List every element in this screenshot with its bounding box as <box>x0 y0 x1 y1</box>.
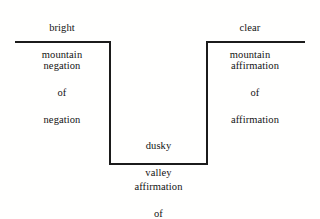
label-line: of <box>203 86 307 99</box>
label-negation-of-negation: negation of negation <box>12 46 112 140</box>
label-line: of <box>12 86 112 99</box>
label-line: bright <box>12 21 112 34</box>
label-line: clear <box>200 21 300 34</box>
label-affirmation-of-negation: affirmation of negation <box>110 167 207 219</box>
label-line: dusky <box>110 139 207 152</box>
diagram-canvas: bright mountain clear mountain negation … <box>0 0 320 219</box>
label-affirmation-of-affirmation: affirmation of affirmation <box>203 46 307 140</box>
label-line: affirmation <box>203 113 307 126</box>
label-line: affirmation <box>110 180 207 193</box>
label-line: affirmation <box>203 59 307 72</box>
label-line: negation <box>12 59 112 72</box>
label-line: of <box>110 207 207 219</box>
label-line: negation <box>12 113 112 126</box>
